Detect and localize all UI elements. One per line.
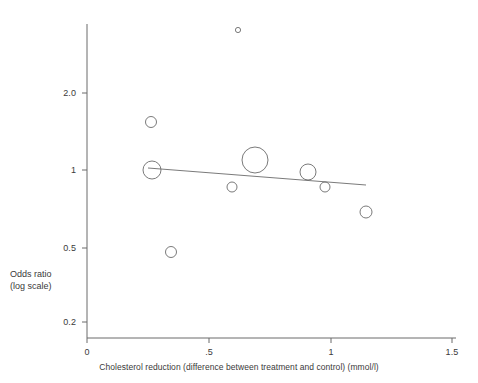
data-point: [143, 161, 161, 179]
data-point: [242, 147, 268, 173]
y-tick-label-0-5: 0.5: [48, 243, 76, 253]
x-tick-marks: [87, 338, 452, 343]
data-point: [235, 27, 240, 32]
y-tick-label-2: 2.0: [48, 88, 76, 98]
data-point: [360, 206, 372, 218]
y-axis-title-line2: (log scale): [10, 280, 82, 292]
x-tick-label-1-5: 1.5: [446, 347, 459, 357]
y-tick-label-0-2: 0.2: [48, 317, 76, 327]
data-point: [166, 247, 177, 258]
x-tick-label-1: 1: [328, 347, 333, 357]
y-tick-label-1: 1: [48, 165, 76, 175]
x-tick-label-0: 0: [84, 347, 89, 357]
y-axis-title-line1: Odds ratio: [10, 268, 82, 280]
data-point: [146, 117, 157, 128]
data-point: [227, 182, 237, 192]
y-tick-marks: [82, 93, 87, 322]
x-axis-title: Cholesterol reduction (difference betwee…: [0, 362, 478, 372]
regression-line: [148, 168, 366, 185]
scatter-chart: 2.0 1 0.5 0.2 0 .5 1 1.5 Odds ratio (log…: [0, 0, 478, 383]
data-point: [300, 164, 316, 180]
data-markers: [143, 27, 372, 257]
data-point: [320, 182, 330, 192]
y-axis-title: Odds ratio (log scale): [10, 268, 82, 292]
x-tick-label-0-5: .5: [205, 347, 213, 357]
